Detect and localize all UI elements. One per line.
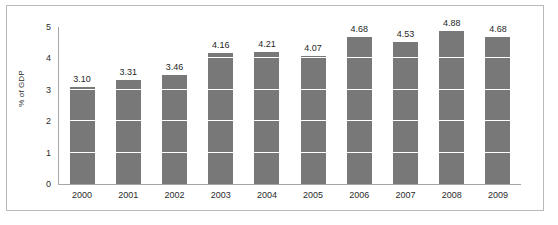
gridline-segment [254, 89, 279, 90]
plot-area: 3.103.313.464.164.214.074.684.534.884.68 [59, 27, 521, 184]
bar-value-label: 4.07 [289, 43, 338, 53]
gridline-segment [70, 89, 95, 90]
x-axis-category-label: 2006 [336, 190, 382, 200]
bar[interactable] [393, 42, 418, 184]
gridline-segment [393, 57, 418, 58]
bar-slot: 4.68 [485, 27, 510, 184]
bar-slot: 3.46 [162, 27, 187, 184]
gridline-segment [254, 120, 279, 121]
x-axis-category-label: 2004 [244, 190, 290, 200]
bar[interactable] [208, 53, 233, 184]
y-axis-tick-label: 1 [33, 148, 51, 158]
gridline-segment [116, 152, 141, 153]
gridline-segment [347, 120, 372, 121]
bar-value-label: 4.21 [242, 39, 291, 49]
y-axis-title: % of GDP [17, 57, 26, 121]
gridline-segment [162, 89, 187, 90]
bar-value-label: 4.16 [196, 40, 245, 50]
gridline-segment [485, 89, 510, 90]
gridline-segment [347, 152, 372, 153]
gridline-segment [254, 57, 279, 58]
y-axis-tick-label: 3 [33, 85, 51, 95]
gridline-segment [301, 89, 326, 90]
x-axis-category-label: 2000 [59, 190, 105, 200]
bar-slot: 4.68 [347, 27, 372, 184]
bar-slot: 4.16 [208, 27, 233, 184]
gridline-segment [301, 152, 326, 153]
x-axis-category-label: 2003 [198, 190, 244, 200]
y-axis-tick-label: 5 [33, 22, 51, 32]
gridline-segment [208, 89, 233, 90]
x-axis-line [58, 184, 521, 185]
bar-value-label: 4.53 [381, 29, 430, 39]
gridline-segment [439, 89, 464, 90]
x-axis-category-label: 2005 [290, 190, 336, 200]
bar-slot: 4.53 [393, 27, 418, 184]
gridline-segment [485, 57, 510, 58]
gridline-segment [347, 57, 372, 58]
gridline-segment [393, 152, 418, 153]
gridline-segment [208, 152, 233, 153]
chart-frame: % of GDP 012345 3.103.313.464.164.214.07… [6, 5, 544, 211]
bar-value-label: 4.68 [335, 24, 384, 34]
y-axis-tick-label: 4 [33, 53, 51, 63]
x-axis-category-label: 2001 [105, 190, 151, 200]
bar-value-label: 3.10 [58, 74, 107, 84]
gridline-segment [208, 120, 233, 121]
gridline-segment [393, 120, 418, 121]
x-axis-category-label: 2008 [429, 190, 475, 200]
bar-value-label: 4.68 [473, 24, 522, 34]
bar-slot: 3.31 [116, 27, 141, 184]
gridline-segment [208, 57, 233, 58]
gridline-segment [485, 152, 510, 153]
gridline-segment [439, 120, 464, 121]
bar-value-label: 3.31 [104, 67, 153, 77]
gridline-segment [393, 89, 418, 90]
bar[interactable] [439, 31, 464, 184]
bar-value-label: 3.46 [150, 62, 199, 72]
bar[interactable] [116, 80, 141, 184]
bar[interactable] [485, 37, 510, 184]
x-axis-category-label: 2007 [382, 190, 428, 200]
gridline-segment [162, 120, 187, 121]
gridline-segment [70, 152, 95, 153]
gridline-segment [70, 120, 95, 121]
bar[interactable] [301, 56, 326, 184]
gridline-segment [485, 120, 510, 121]
gridline-segment [439, 152, 464, 153]
gridline-segment [162, 152, 187, 153]
bar[interactable] [70, 87, 95, 184]
bar-slot: 3.10 [70, 27, 95, 184]
gridline-segment [254, 152, 279, 153]
bar[interactable] [162, 75, 187, 184]
gridline-segment [116, 120, 141, 121]
bar[interactable] [347, 37, 372, 184]
y-axis-tick-label: 2 [33, 116, 51, 126]
gridline-segment [301, 120, 326, 121]
bar-slot: 4.21 [254, 27, 279, 184]
bar-value-label: 4.88 [427, 18, 476, 28]
x-axis-category-label: 2009 [475, 190, 521, 200]
bar-slot: 4.88 [439, 27, 464, 184]
bar[interactable] [254, 52, 279, 184]
gridline-segment [439, 57, 464, 58]
gridline-segment [116, 89, 141, 90]
y-axis-tick-label: 0 [33, 179, 51, 189]
bar-slot: 4.07 [301, 27, 326, 184]
x-axis-category-label: 2002 [151, 190, 197, 200]
gridline-segment [301, 57, 326, 58]
gridline-segment [347, 89, 372, 90]
